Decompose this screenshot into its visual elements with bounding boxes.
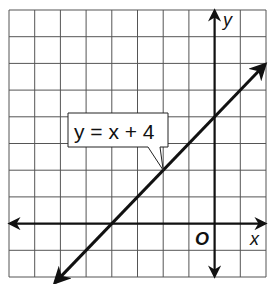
graphed-line [55,65,264,283]
x-axis-label: x [249,229,260,249]
origin-label: O [195,229,209,249]
equation-label: y = x + 4 [74,120,155,143]
equation-callout: y = x + 4 [68,113,168,170]
coordinate-plane: y = x + 4 y x O [0,0,271,284]
y-axis-label: y [221,10,233,30]
